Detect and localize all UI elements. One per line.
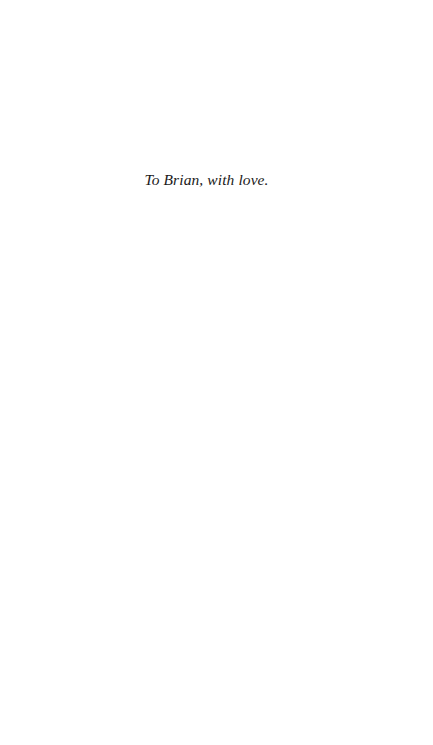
book-page: To Brian, with love. xyxy=(0,0,433,745)
dedication-text: To Brian, with love. xyxy=(0,170,413,190)
